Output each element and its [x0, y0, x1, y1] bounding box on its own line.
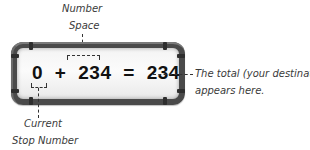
frame-joint-right-top: [177, 54, 185, 58]
frame-joint-left-bottom: [11, 89, 19, 93]
equation: 0 + 234 = 234: [32, 62, 180, 84]
current-stop-bracket: [31, 83, 47, 88]
frame-joint-right-bottom: [177, 89, 185, 93]
frame-joint-bottom-right: [163, 97, 167, 105]
current-stop-number: 0: [32, 62, 43, 84]
total-label-line1: The total (your destination): [195, 68, 310, 80]
current-stop-label-line1: Current: [24, 118, 62, 130]
frame-joint-left-top: [11, 54, 19, 58]
current-stop-label-line2: Stop Number: [12, 135, 78, 147]
number-space-bracket: [67, 55, 100, 60]
current-stop-leader-line: [38, 88, 39, 118]
frame-joint-top-left: [29, 42, 33, 50]
number-space-value: 234: [78, 62, 111, 84]
frame-joint-top-right: [163, 42, 167, 50]
total-leader-line: [153, 74, 193, 75]
number-space-label-line1: Number: [62, 3, 102, 15]
equals-sign: =: [123, 62, 135, 84]
number-space-label-line2: Space: [69, 20, 99, 32]
total-label-line2: appears here.: [195, 85, 265, 97]
plus-sign: +: [55, 62, 67, 84]
frame-joint-bottom-left: [29, 97, 33, 105]
total-value: 234: [147, 62, 180, 84]
